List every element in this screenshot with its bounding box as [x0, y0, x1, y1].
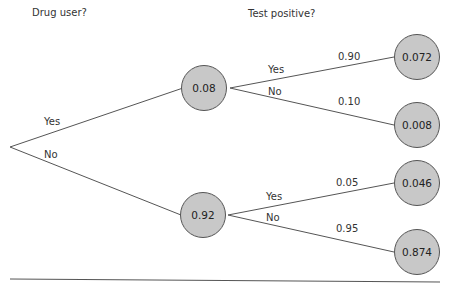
- edge-root-no: [10, 147, 181, 215]
- branch-label-yes: Yes: [44, 116, 60, 127]
- leaf-node: 0.046: [394, 160, 440, 206]
- tree-edges: [0, 0, 450, 291]
- edge-nonuser-no: [228, 215, 394, 252]
- header-drug-user: Drug user?: [32, 7, 87, 18]
- branch-label-yes: Yes: [268, 64, 284, 75]
- edge-root-yes: [10, 88, 183, 147]
- prob-label: 0.05: [336, 177, 358, 188]
- prob-label: 0.10: [338, 96, 360, 107]
- leaf-node: 0.874: [394, 229, 440, 275]
- branch-label-no: No: [268, 86, 282, 97]
- header-test-positive: Test positive?: [248, 8, 315, 19]
- leaf-node: 0.008: [394, 102, 440, 148]
- edge-user-no: [230, 88, 394, 125]
- branch-label-no: No: [266, 212, 280, 223]
- edge-user-yes: [230, 57, 394, 88]
- prob-label: 0.95: [336, 223, 358, 234]
- edge-nonuser-yes: [228, 183, 394, 215]
- node-drug-user: 0.08: [181, 65, 227, 111]
- branch-label-yes: Yes: [266, 191, 282, 202]
- branch-label-no: No: [44, 149, 58, 160]
- leaf-node: 0.072: [394, 34, 440, 80]
- node-non-user: 0.92: [180, 192, 226, 238]
- baseline-rule: [10, 279, 440, 282]
- prob-label: 0.90: [338, 51, 360, 62]
